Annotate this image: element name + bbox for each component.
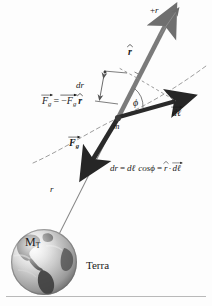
eq1-rhs-vector: −Fg xyxy=(61,96,76,108)
radius-label: r xyxy=(50,185,54,194)
earth-mass-label: MT xyxy=(25,236,40,249)
eq2-dot-product-operator: · xyxy=(169,163,172,173)
force-equation: Fg = −Fg r xyxy=(42,96,82,108)
eq1-equals: = xyxy=(54,95,60,106)
eq2-equals-2: = xyxy=(157,163,162,173)
phi-text: ϕ xyxy=(133,97,138,108)
eq1-rhs-subscript: g xyxy=(73,100,76,107)
eq2-d-ell: dℓ xyxy=(127,163,135,173)
eq2-d-ell-vector-base: dℓ xyxy=(173,163,181,173)
Fg-base: F xyxy=(69,137,76,148)
dr-bracket xyxy=(95,71,127,105)
eq1-r-hat-base: r xyxy=(78,95,82,106)
force-vector-label: Fg xyxy=(69,138,79,150)
r-hat-glyph: r xyxy=(128,47,132,57)
eq1-r-hat: r xyxy=(78,96,82,106)
earth-name-text: Terra xyxy=(86,259,109,271)
Fg-vector-glyph: Fg xyxy=(69,138,79,150)
earth-name-label: Terra xyxy=(86,260,109,271)
plus-r-axis-label: +r xyxy=(150,6,159,15)
plus-r-text: r xyxy=(155,5,159,15)
eq2-dr: dr xyxy=(110,163,118,173)
dr-text: dr xyxy=(76,80,84,90)
eq2-phi: ϕ xyxy=(150,163,155,173)
eq2-cos: cos xyxy=(138,163,150,173)
d-ell-label: dℓ xyxy=(172,108,181,118)
mass-label: m xyxy=(113,122,120,131)
d-ell-vector-glyph: dℓ xyxy=(172,108,181,118)
eq1-lhs-subscript: g xyxy=(48,100,51,107)
eq2-r-hat: r xyxy=(164,164,168,173)
r-hat-label: r xyxy=(128,47,132,57)
mass-text: m xyxy=(113,121,120,131)
eq2-equals-1: = xyxy=(120,163,125,173)
phi-angle-label: ϕ xyxy=(133,98,138,108)
earth-globe xyxy=(11,229,77,295)
earth-mass-subscript: T xyxy=(36,241,41,250)
dr-label: dr xyxy=(76,81,84,90)
eq2-d-ell-vector: dℓ xyxy=(173,164,181,173)
physics-diagram-figure: +r r dr ϕ dℓ m xyxy=(0,0,212,306)
earth-mass-base: M xyxy=(25,235,36,249)
r-hat-base: r xyxy=(128,46,132,57)
eq2-r-hat-base: r xyxy=(164,163,168,173)
Fg-subscript: g xyxy=(76,142,79,149)
bottom-rule-divider xyxy=(6,296,206,297)
eq1-lhs-vector: Fg xyxy=(42,96,52,108)
projection-equation: dr=dℓcosϕ= r · dℓ xyxy=(110,164,181,173)
radius-text: r xyxy=(50,184,54,194)
d-ell-text: dℓ xyxy=(172,107,181,118)
